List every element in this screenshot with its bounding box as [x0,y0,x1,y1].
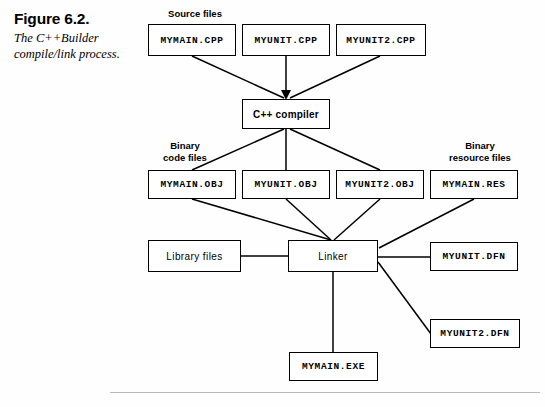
node-myunit-obj[interactable]: MYUNIT.OBJ [242,170,330,199]
group-caption-source-files: Source files [150,8,240,20]
node-myunit2-cpp[interactable]: MYUNIT2.CPP [336,24,426,56]
node-mymain-exe-label: MYMAIN.EXE [302,361,365,372]
wire-mymainres-linker [379,199,474,248]
node-myunit-cpp[interactable]: MYUNIT.CPP [242,24,330,56]
wire-myunit2cpp-compiler [290,56,380,98]
node-linker[interactable]: Linker [288,240,378,272]
node-mymain-cpp-label: MYMAIN.CPP [160,35,223,46]
node-mymain-obj[interactable]: MYMAIN.OBJ [148,170,236,199]
node-myunit-cpp-label: MYUNIT.CPP [254,35,317,46]
group-caption-binary-resource-files: Binary resource files [430,140,530,163]
node-myunit2-cpp-label: MYUNIT2.CPP [346,35,415,46]
node-mymain-cpp[interactable]: MYMAIN.CPP [148,24,236,56]
figure-page: Figure 6.2. The C++Builder compile/link … [0,0,545,407]
node-myunit-obj-label: MYUNIT.OBJ [254,179,317,190]
wire-compiler-myunit2obj [290,129,380,170]
node-mymain-exe[interactable]: MYMAIN.EXE [289,352,378,381]
node-cpp-compiler[interactable]: C++ compiler [242,99,330,129]
node-mymain-res[interactable]: MYMAIN.RES [430,170,518,199]
node-myunit-dfn-label: MYUNIT.DFN [442,251,505,262]
node-mymain-obj-label: MYMAIN.OBJ [160,179,223,190]
wire-myunit2obj-linker [334,199,380,240]
node-cpp-compiler-label: C++ compiler [253,109,319,120]
node-library-files[interactable]: Library files [148,240,241,272]
node-library-files-label: Library files [166,251,222,262]
node-linker-label: Linker [318,251,348,262]
wire-mymaincpp-compiler [192,56,284,98]
bottom-divider [110,392,540,393]
node-myunit2-obj[interactable]: MYUNIT2.OBJ [336,170,424,199]
node-myunit2-dfn[interactable]: MYUNIT2.DFN [430,319,520,348]
group-caption-binary-code-files: Binary code files [140,140,230,163]
node-mymain-res-label: MYMAIN.RES [442,179,505,190]
node-myunit-dfn[interactable]: MYUNIT.DFN [430,242,518,271]
wire-mymainobj-linker [192,199,331,240]
node-myunit2-dfn-label: MYUNIT2.DFN [440,328,509,339]
node-myunit2-obj-label: MYUNIT2.OBJ [345,179,414,190]
wire-linker-myunit2dfn [378,262,431,334]
